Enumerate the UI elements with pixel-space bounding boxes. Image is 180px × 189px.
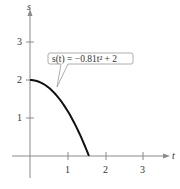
equation-label: s(t) = −0.81t² + 2 [52, 54, 117, 65]
x-tick-label: 3 [140, 164, 145, 175]
y-axis-label: s [27, 1, 31, 12]
y-tick-label: 1 [17, 112, 22, 123]
x-tick-label: 2 [103, 164, 108, 175]
x-ticks: 1 2 3 [65, 152, 145, 175]
x-axis-arrow-icon [163, 154, 170, 159]
chart: s t 1 2 3 1 2 3 s(t) = −0.81t² + 2 [0, 0, 180, 189]
curve-s-of-t [30, 80, 89, 156]
y-tick-label: 2 [17, 74, 22, 85]
x-axis-label: t [172, 150, 175, 161]
x-tick-label: 1 [65, 164, 70, 175]
y-tick-label: 3 [17, 36, 22, 47]
equation-callout: s(t) = −0.81t² + 2 [48, 53, 133, 87]
